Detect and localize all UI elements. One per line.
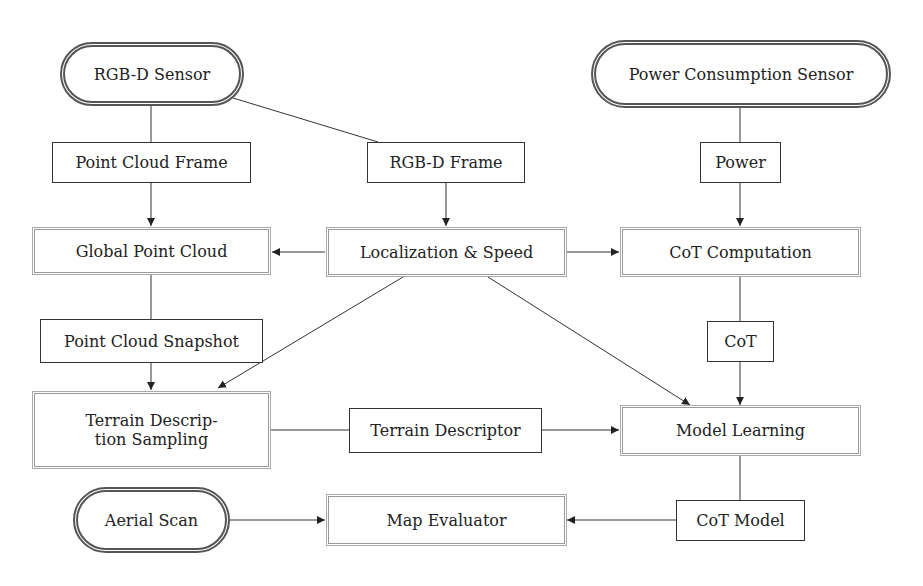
node-label: Terrain Descriptor: [370, 421, 520, 440]
node-cot-computation: CoT Computation: [620, 227, 861, 277]
node-label: Point Cloud Frame: [75, 153, 227, 172]
node-label-line2: tion Sampling: [95, 430, 208, 449]
node-label: CoT Model: [696, 511, 784, 530]
node-label: Power Consumption Sensor: [629, 65, 854, 84]
node-label: CoT: [724, 332, 757, 351]
node-label: RGB-D Frame: [389, 153, 502, 172]
node-cot-model: CoT Model: [676, 500, 805, 541]
node-rgbd-frame: RGB-D Frame: [367, 142, 525, 183]
node-label: Power: [715, 153, 766, 172]
node-power: Power: [700, 142, 781, 183]
node-point-cloud-snapshot: Point Cloud Snapshot: [40, 319, 263, 363]
node-label: CoT Computation: [669, 243, 812, 262]
node-label: Map Evaluator: [386, 511, 506, 530]
node-point-cloud-frame: Point Cloud Frame: [52, 142, 251, 183]
node-label-line1: Terrain Descrip-: [85, 411, 217, 430]
node-rgbd-sensor: RGB-D Sensor: [60, 42, 244, 106]
node-aerial-scan: Aerial Scan: [73, 487, 230, 553]
flowchart: RGB-D Sensor Power Consumption Sensor Po…: [0, 0, 923, 586]
node-cot: CoT: [707, 321, 774, 362]
node-label: Global Point Cloud: [76, 242, 228, 261]
node-map-evaluator: Map Evaluator: [326, 494, 567, 546]
node-label: RGB-D Sensor: [94, 65, 210, 84]
edge-rgbd-sensor-to-rgbd-frame: [233, 98, 378, 142]
node-label: Model Learning: [676, 421, 805, 440]
node-terrain-description-sampling: Terrain Descrip- tion Sampling: [32, 391, 271, 469]
node-label: Point Cloud Snapshot: [64, 332, 239, 351]
node-label: Localization & Speed: [360, 243, 533, 262]
edge-localization-to-model-learning: [488, 277, 690, 405]
node-power-consumption-sensor: Power Consumption Sensor: [591, 40, 891, 108]
node-label: Aerial Scan: [105, 511, 198, 530]
node-localization-speed: Localization & Speed: [326, 227, 567, 277]
node-model-learning: Model Learning: [620, 405, 861, 456]
node-global-point-cloud: Global Point Cloud: [32, 227, 271, 275]
node-terrain-descriptor: Terrain Descriptor: [349, 408, 542, 453]
